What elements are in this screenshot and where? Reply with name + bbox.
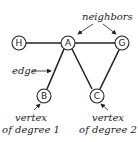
- edge-g-c: [100, 50, 119, 89]
- degree-1-label-line2: of degree 1: [2, 124, 60, 135]
- degree-1-label-line1: vertex: [15, 112, 47, 123]
- node-c: C: [90, 89, 104, 103]
- node-label: H: [16, 38, 23, 48]
- edges: [26, 43, 119, 89]
- degree-2-label-line2: of degree 2: [79, 124, 137, 135]
- degree-2-label-line1: vertex: [92, 112, 124, 123]
- arrow-neighbors-g: [103, 24, 116, 34]
- node-label: A: [65, 38, 72, 48]
- node-label: C: [94, 91, 100, 101]
- node-b: B: [37, 89, 51, 103]
- arrow-degree-1: [34, 104, 40, 110]
- graph-diagram: H A G B C neighbors edge vertex of degre…: [0, 0, 138, 142]
- edge-a-b: [47, 49, 64, 89]
- node-a: A: [61, 36, 75, 50]
- arrow-degree-2: [101, 104, 108, 110]
- edge-label: edge: [12, 65, 37, 76]
- node-label: B: [41, 91, 47, 101]
- node-label: G: [119, 38, 126, 48]
- node-g: G: [115, 36, 129, 50]
- node-h: H: [12, 36, 26, 50]
- neighbors-label: neighbors: [82, 11, 133, 22]
- edge-a-c: [72, 49, 92, 89]
- arrow-neighbors-a: [78, 24, 93, 34]
